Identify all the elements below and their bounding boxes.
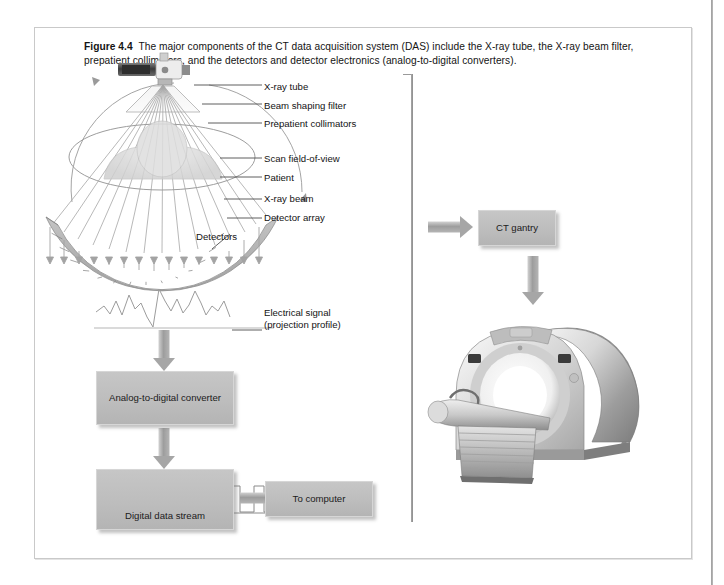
callout-xray-beam: X-ray beam (264, 193, 314, 205)
arrow-adc-to-digital-stream (147, 428, 181, 470)
box-analog-to-digital-converter[interactable]: Analog-to-digital converter (96, 371, 234, 425)
box-analog-to-digital-converter-label: Analog-to-digital converter (109, 392, 221, 405)
box-ct-gantry[interactable]: CT gantry (478, 210, 556, 246)
box-digital-data-stream[interactable]: Digital data stream (96, 469, 234, 530)
gantry-control-knob (570, 374, 579, 383)
arrow-into-ct-gantry (428, 212, 476, 242)
callout-beam-shaping-filter: Beam shaping filter (264, 100, 346, 112)
box-to-computer-label: To computer (293, 493, 346, 506)
callout-detectors: Detectors (196, 231, 237, 243)
page-right-rule (711, 0, 713, 585)
patient-silhouette (104, 121, 222, 179)
callout-detector-array: Detector array (264, 212, 325, 224)
callout-electrical-signal: Electrical signal (projection profile) (264, 307, 341, 331)
callout-patient: Patient (264, 172, 294, 184)
gantry-top-panel (510, 328, 532, 337)
gantry-left-display (468, 354, 481, 363)
page-canvas: Figure 4.4 The major components of the C… (0, 0, 724, 585)
box-digital-data-stream-label: Digital data stream (125, 510, 205, 523)
electrical-signal-waveform (94, 289, 274, 328)
callout-prepatient-collimators: Prepatient collimators (264, 118, 356, 130)
callout-xray-tube: X-ray tube (264, 81, 308, 93)
box-ct-gantry-label: CT gantry (496, 222, 538, 235)
gantry-indicator-light (518, 346, 523, 351)
gantry-base-side (584, 442, 630, 460)
xray-tube-icon (118, 53, 190, 85)
gantry-right-display (558, 354, 571, 363)
arrow-signal-to-adc (147, 330, 181, 372)
box-to-computer[interactable]: To computer (265, 481, 373, 517)
callout-leader-lines (194, 85, 262, 330)
callout-scan-field-of-view: Scan field-of-view (264, 153, 340, 165)
table-head-rest (428, 401, 448, 423)
ct-scanner-photo (424, 300, 674, 485)
